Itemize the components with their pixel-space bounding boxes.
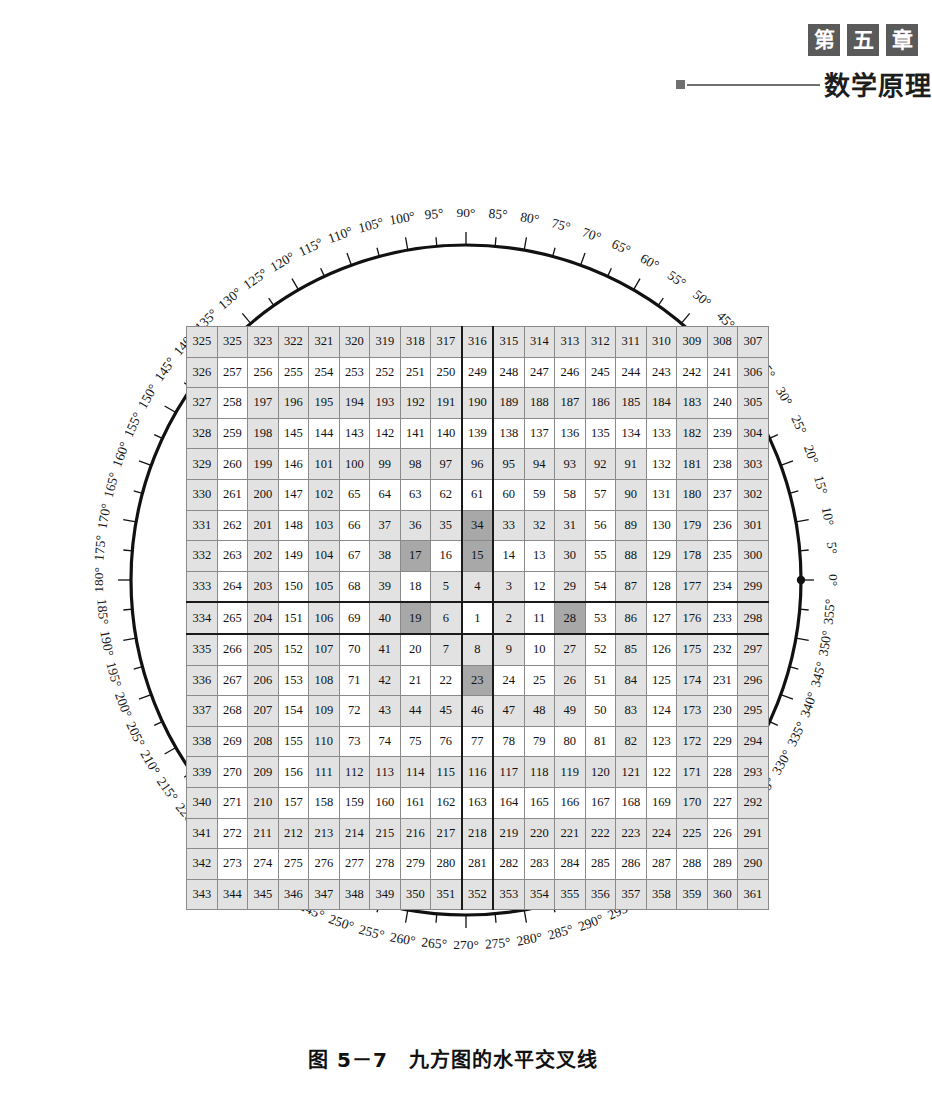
grid-cell: 158 (309, 787, 340, 818)
dial-label: 70° (580, 224, 603, 245)
grid-cell: 80 (555, 726, 586, 757)
grid-cell: 326 (187, 357, 218, 388)
grid-cell: 203 (248, 571, 279, 602)
grid-cell: 54 (585, 571, 616, 602)
grid-cell: 71 (339, 665, 370, 696)
grid-row: 3392702091561111121131141151161171181191… (187, 757, 769, 788)
grid-cell: 95 (493, 449, 524, 480)
grid-cell: 293 (738, 757, 769, 788)
grid-cell: 101 (309, 449, 340, 480)
grid-cell: 157 (278, 787, 309, 818)
grid-cell: 257 (217, 357, 248, 388)
grid-cell: 91 (616, 449, 647, 480)
grid-cell: 48 (524, 696, 555, 727)
dial-tick (800, 609, 809, 610)
grid-cell: 333 (187, 571, 218, 602)
grid-cell: 340 (187, 787, 218, 818)
grid-cell: 21 (400, 665, 431, 696)
grid-cell: 279 (400, 849, 431, 880)
grid-cell: 266 (217, 634, 248, 665)
grid-cell: 268 (217, 696, 248, 727)
grid-cell: 259 (217, 418, 248, 449)
dial-label: 75° (550, 215, 572, 234)
dial-tick (796, 520, 809, 522)
grid-cell: 280 (431, 849, 462, 880)
grid-cell: 60 (493, 479, 524, 510)
dial-label: 55° (665, 267, 689, 290)
grid-cell: 45 (431, 696, 462, 727)
grid-cell: 154 (278, 696, 309, 727)
grid-cell: 127 (646, 602, 677, 634)
grid-cell: 248 (493, 357, 524, 388)
grid-cell: 267 (217, 665, 248, 696)
grid-cell: 270 (217, 757, 248, 788)
grid-cell: 36 (400, 510, 431, 541)
grid-cell: 189 (493, 388, 524, 419)
grid-cell: 225 (677, 818, 708, 849)
grid-cell: 37 (370, 510, 401, 541)
grid-cell: 353 (493, 879, 524, 910)
grid-cell: 252 (370, 357, 401, 388)
grid-row: 3433443453463473483493503513523533543553… (187, 879, 769, 910)
grid-cell: 72 (339, 696, 370, 727)
dial-tick (347, 253, 351, 265)
grid-cell: 310 (646, 327, 677, 358)
dial-label: 270° (453, 937, 479, 952)
grid-cell: 281 (462, 849, 494, 880)
grid-cell: 144 (309, 418, 340, 449)
grid-cell: 172 (677, 726, 708, 757)
grid-cell: 97 (431, 449, 462, 480)
grid-cell: 274 (248, 849, 279, 880)
dial-label: 340° (797, 690, 820, 719)
grid-cell: 176 (677, 602, 708, 634)
grid-cell: 285 (585, 849, 616, 880)
grid-cell: 245 (585, 357, 616, 388)
dial-label: 105° (357, 215, 386, 236)
grid-cell: 318 (400, 327, 431, 358)
dial-tick (406, 237, 408, 250)
grid-cell: 201 (248, 510, 279, 541)
grid-cell: 85 (616, 634, 647, 665)
dial-label: 335° (784, 719, 808, 749)
grid-cell: 118 (524, 757, 555, 788)
grid-row: 3282591981451441431421411401391381371361… (187, 418, 769, 449)
grid-cell: 210 (248, 787, 279, 818)
grid-cell: 250 (431, 357, 462, 388)
dial-label: 150° (135, 381, 161, 411)
grid-cell: 272 (217, 818, 248, 849)
grid-cell: 283 (524, 849, 555, 880)
grid-cell: 13 (524, 541, 555, 572)
grid-cell: 186 (585, 388, 616, 419)
grid-cell: 81 (585, 726, 616, 757)
dial-tick (123, 609, 132, 610)
dial-tick (123, 520, 136, 522)
grid-cell: 20 (400, 634, 431, 665)
grid-row: 3342652041511066940196121128538612717623… (187, 602, 769, 634)
grid-cell: 317 (431, 327, 462, 358)
dial-label: 280° (515, 929, 543, 948)
grid-cell: 87 (616, 571, 647, 602)
grid-cell: 306 (738, 357, 769, 388)
grid-cell: 334 (187, 602, 218, 634)
dial-tick (139, 695, 151, 699)
grid-cell: 240 (707, 388, 738, 419)
dial-label: 260° (389, 929, 417, 948)
grid-cell: 168 (616, 787, 647, 818)
grid-cell: 194 (339, 388, 370, 419)
grid-cell: 58 (555, 479, 586, 510)
grid-cell: 28 (555, 602, 586, 634)
zero-degree-dot-icon (797, 576, 805, 584)
grid-cell: 62 (431, 479, 462, 510)
grid-cell: 192 (400, 388, 431, 419)
grid-cell: 233 (707, 602, 738, 634)
grid-cell: 129 (646, 541, 677, 572)
grid-cell: 290 (738, 849, 769, 880)
grid-cell: 156 (278, 757, 309, 788)
grid-cell: 355 (555, 879, 586, 910)
grid-cell: 5 (431, 571, 462, 602)
dial-tick (154, 435, 162, 439)
grid-cell: 199 (248, 449, 279, 480)
grid-cell: 332 (187, 541, 218, 572)
grid-cell: 4 (462, 571, 494, 602)
grid-cell: 40 (370, 602, 401, 634)
